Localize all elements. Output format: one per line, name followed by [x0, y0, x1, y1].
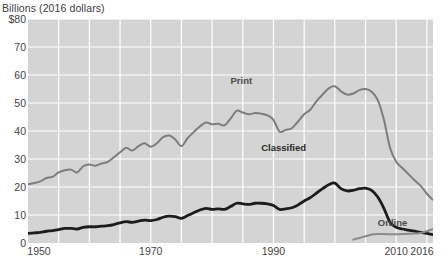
y-tick-label: $80 [0, 14, 26, 24]
x-tick-label: 1950 [27, 245, 50, 257]
chart-canvas [28, 19, 433, 243]
y-tick-label: 70 [0, 42, 26, 52]
y-tick-label: 20 [0, 182, 26, 192]
x-axis-tick-labels: 19501970199020102016 [28, 245, 433, 265]
y-tick-label: 30 [0, 154, 26, 164]
y-tick-label: 0 [0, 238, 26, 248]
x-tick-label: 2010 [384, 245, 407, 257]
y-tick-label: 40 [0, 126, 26, 136]
x-tick-label: 1970 [139, 245, 162, 257]
newspaper-ad-revenue-chart: Billions (2016 dollars) 010203040506070$… [0, 0, 447, 270]
series-label-online: Online [378, 217, 408, 228]
series-line-classified [28, 183, 433, 235]
series-label-print: Print [231, 75, 253, 86]
y-axis-tick-labels: 010203040506070$80 [0, 19, 26, 243]
x-tick-label: 1990 [262, 245, 285, 257]
y-tick-label: 10 [0, 210, 26, 220]
x-tick-label: 2016 [410, 245, 433, 257]
series-label-classified: Classified [261, 142, 306, 153]
plot-area [28, 19, 433, 243]
y-tick-label: 50 [0, 98, 26, 108]
y-tick-label: 60 [0, 70, 26, 80]
